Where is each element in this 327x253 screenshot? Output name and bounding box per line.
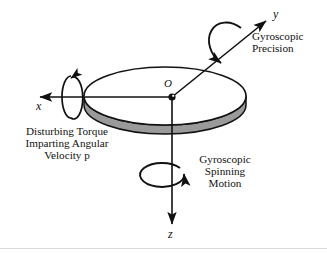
gyroscope-diagram: x y z O Gyroscopic Precision Disturbing … xyxy=(0,0,327,253)
x-axis-label: x xyxy=(36,100,41,113)
disturbing-torque-label: Disturbing Torque Imparting Angular Velo… xyxy=(8,126,126,162)
disk-face xyxy=(84,67,246,125)
origin-label: O xyxy=(164,78,172,90)
bottom-divider xyxy=(0,248,327,249)
y-axis-label: y xyxy=(273,8,278,21)
z-axis-spin-arrow xyxy=(140,163,184,187)
z-axis-label: z xyxy=(168,228,173,241)
gyroscopic-spinning-motion-label: Gyroscopic Spinning Motion xyxy=(186,154,264,190)
y-axis-precession-arrow xyxy=(209,23,241,63)
gyroscopic-precision-label: Gyroscopic Precision xyxy=(252,31,304,55)
origin-dot xyxy=(168,93,175,100)
